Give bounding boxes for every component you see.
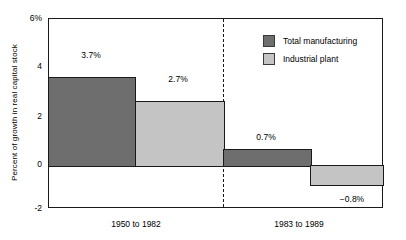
y-tick-label-6: 6% [0,13,48,23]
bar-industrial-plant-1983-1989 [310,165,384,186]
legend-swatch-icon-total-manufacturing [263,35,275,47]
y-tick-text: -2 [34,203,48,213]
bar-total-manufacturing-1983-1989 [223,149,312,167]
legend-swatch-icon-industrial-plant [263,53,275,65]
y-tick-label-0: 0 [0,159,48,169]
chart-container: Percent of growth in real capital stock … [0,0,406,240]
plot-area: Total manufacturing Industrial plant [48,18,383,208]
value-label-3-7: 3.7% [81,50,100,60]
value-label-2-7: 2.7% [168,74,187,84]
y-tick-label-2: 2 [0,111,48,121]
legend-label-industrial-plant: Industrial plant [283,54,338,64]
y-tick-label-4: 4 [0,61,48,71]
y-tick-text: 4 [37,61,48,71]
legend-label-total-manufacturing: Total manufacturing [283,36,357,46]
value-label-minus-0-8: −0.8% [340,194,364,204]
legend-item-industrial-plant: Industrial plant [263,53,357,65]
x-axis-label-1983-1989: 1983 to 1989 [274,219,324,229]
y-tick-text: 2 [37,111,48,121]
bar-total-manufacturing-1950-1982 [48,77,136,167]
bar-industrial-plant-1950-1982 [135,101,225,167]
legend-item-total-manufacturing: Total manufacturing [263,35,357,47]
y-tick-label-minus2: -2 [0,203,48,213]
y-tick-text: 0 [37,159,48,169]
x-axis-label-1950-1982: 1950 to 1982 [111,219,161,229]
y-tick-text: 6% [30,13,48,23]
legend: Total manufacturing Industrial plant [263,35,357,71]
value-label-0-7: 0.7% [256,132,275,142]
